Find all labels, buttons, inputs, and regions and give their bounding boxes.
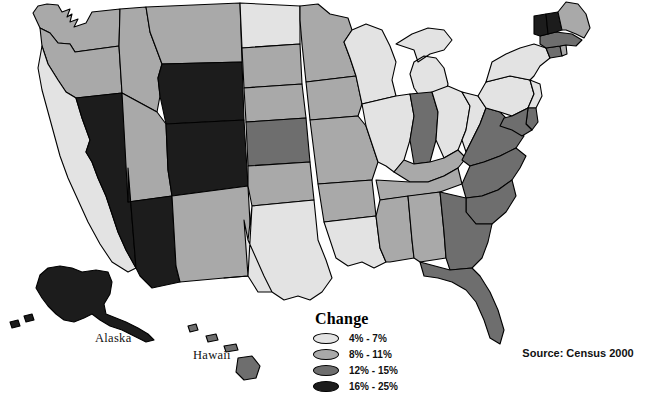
state-ak-island — [10, 320, 20, 328]
legend-swatch-icon — [313, 381, 339, 392]
state-ne[interactable] — [244, 84, 306, 122]
state-ia[interactable] — [306, 76, 362, 120]
state-hi-big-island[interactable] — [236, 356, 260, 380]
state-nm[interactable] — [172, 186, 252, 282]
state-co[interactable] — [166, 120, 248, 196]
state-in[interactable] — [410, 92, 438, 164]
state-ok[interactable] — [248, 162, 314, 206]
legend-item-label: 4% - 7% — [349, 333, 387, 344]
legend-item[interactable]: 12% - 15% — [313, 363, 398, 378]
legend-item-label: 12% - 15% — [349, 365, 398, 376]
state-ny[interactable] — [486, 44, 550, 82]
map-label-alaska: Alaska — [95, 331, 132, 346]
state-sd[interactable] — [242, 44, 302, 88]
state-nd[interactable] — [240, 3, 300, 48]
legend-item-label: 16% - 25% — [349, 381, 398, 392]
legend-swatch-icon — [313, 365, 339, 376]
source-note: Source: Census 2000 — [522, 347, 633, 359]
state-fl[interactable] — [420, 262, 504, 344]
state-hi-kauai — [188, 324, 198, 332]
legend-item[interactable]: 8% - 11% — [313, 347, 398, 362]
legend-swatch-icon — [313, 349, 339, 360]
state-shapes — [10, 2, 590, 380]
state-ak-aleutians — [24, 314, 34, 322]
map-label-hawaii: Hawaii — [193, 348, 231, 363]
state-ks[interactable] — [246, 118, 310, 166]
map-figure: Alaska Hawaii Change 4% - 7% 8% - 11% 12… — [0, 0, 656, 401]
legend-item[interactable]: 4% - 7% — [313, 331, 398, 346]
state-hi-oahu — [206, 334, 218, 342]
state-wy[interactable] — [158, 62, 244, 124]
state-ar[interactable] — [318, 180, 376, 222]
state-mt[interactable] — [146, 3, 242, 64]
legend-swatch-icon — [313, 333, 339, 344]
state-ms[interactable] — [376, 196, 414, 262]
state-al[interactable] — [408, 192, 446, 262]
legend-item[interactable]: 16% - 25% — [313, 379, 398, 394]
legend-item-label: 8% - 11% — [349, 349, 392, 360]
legend-title: Change — [315, 310, 398, 328]
map-legend: Change 4% - 7% 8% - 11% 12% - 15% 16% - … — [313, 310, 398, 395]
